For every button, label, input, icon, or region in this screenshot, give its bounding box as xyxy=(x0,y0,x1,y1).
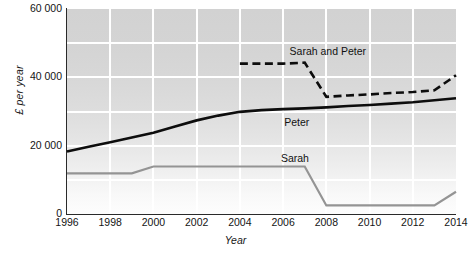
x-axis-tick-labels: 1996199820002002200420062008201020122014 xyxy=(0,216,471,232)
figure-caption xyxy=(2,250,442,255)
x-axis-tick-label: 2012 xyxy=(390,216,436,228)
x-axis-tick-label: 1998 xyxy=(87,216,133,228)
x-axis-tick-label: 2004 xyxy=(217,216,263,228)
y-axis-tick-label: 20 000 xyxy=(8,139,62,151)
x-axis-tick-label: 1996 xyxy=(44,216,90,228)
series-label-sarah: Sarah xyxy=(281,152,309,164)
x-axis-title: Year xyxy=(0,234,471,246)
y-axis-tick-label: 40 000 xyxy=(8,70,62,82)
series-layer xyxy=(67,9,456,214)
series-label-peter: Peter xyxy=(284,116,309,128)
x-axis-tick-label: 2010 xyxy=(347,216,393,228)
x-axis-tick-label: 2008 xyxy=(303,216,349,228)
x-axis-tick-label: 2006 xyxy=(260,216,306,228)
plot-area: PeterSarah and PeterSarah xyxy=(67,9,456,214)
x-axis-tick-label: 2002 xyxy=(174,216,220,228)
line-chart-figure: £ per year 020 00040 00060 000 PeterSara… xyxy=(0,0,471,255)
y-axis-tick-label: 60 000 xyxy=(8,2,62,14)
x-axis-tick-label: 2014 xyxy=(433,216,471,228)
x-axis-tick-label: 2000 xyxy=(130,216,176,228)
series-line-peter xyxy=(67,98,456,151)
series-line-sarah xyxy=(67,167,456,206)
series-line-sarah-and-peter xyxy=(240,63,456,97)
series-label-sarah-and-peter: Sarah and Peter xyxy=(290,45,366,57)
